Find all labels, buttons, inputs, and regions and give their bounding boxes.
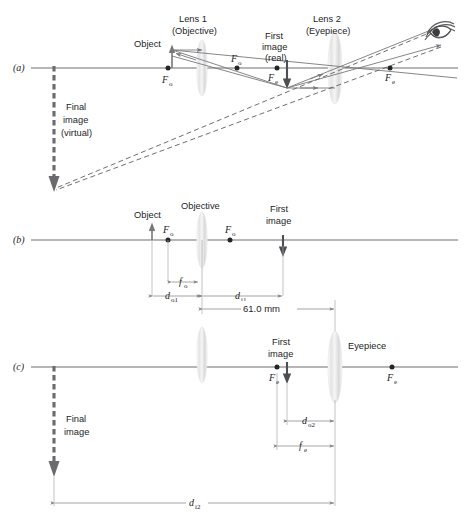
panel-b-dim-object-sub: o1 — [171, 296, 179, 304]
panel-a-label: (a) — [13, 62, 25, 74]
panel-c-eyepiece-label: Eyepiece — [348, 341, 386, 351]
panel-c-final-image-line2: image — [64, 427, 89, 437]
label-F: F — [224, 224, 232, 235]
panel-c: (c) d o2 — [13, 327, 458, 511]
panel-b-object-arrow — [149, 223, 155, 241]
panel-c-focal-right-dot — [390, 365, 395, 370]
panel-b: (b) f o — [13, 201, 458, 345]
panel-a-final-image-line1: Final — [66, 102, 86, 112]
panel-a-virtual-rays — [56, 28, 441, 190]
label-F-sub: o — [232, 230, 236, 238]
panel-a-focal-eyepiece-right-label: F e — [384, 72, 395, 86]
figure-svg: (a) — [0, 0, 464, 524]
label-F-sub: o — [170, 230, 174, 238]
panel-a-eyepiece-lens — [328, 32, 342, 104]
panel-b-dim-separation: 61.0 mm — [203, 301, 334, 315]
panel-b-object-label: Object — [134, 210, 161, 220]
panel-b-extension-lines — [152, 240, 335, 345]
panel-a-lens1-subtitle: (Objective) — [172, 26, 217, 36]
panel-c-dim-image-distance: d i2 — [55, 496, 334, 511]
panel-b-dim-focal-symbol: f — [179, 276, 183, 287]
label-F: F — [230, 53, 238, 64]
panel-b-first-image-line2: image — [266, 216, 291, 226]
panel-a: (a) — [13, 14, 458, 192]
optics-figure-root: (a) — [0, 0, 464, 524]
panel-c-first-image-line2: image — [268, 349, 293, 359]
panel-b-dim-object-distance: d o1 — [153, 290, 201, 304]
panel-b-first-image-line1: First — [270, 204, 288, 214]
panel-c-eyepiece-lens — [328, 331, 342, 403]
panel-c-objective-lens-ghost — [197, 327, 207, 383]
panel-a-focal-eyepiece-right-dot — [388, 66, 393, 71]
panel-a-first-image-line3: (real) — [265, 53, 287, 63]
panel-a-focal-objective-right-label: F o — [230, 53, 242, 67]
label-F: F — [384, 72, 392, 83]
panel-c-dim-focal-sub: e — [304, 446, 307, 454]
panel-b-dim-focal: f o — [172, 276, 198, 290]
panel-c-focal-left-dot — [275, 365, 280, 370]
label-F-sub: e — [392, 78, 395, 86]
panel-a-final-image-line3: (virtual) — [61, 128, 92, 138]
panel-a-objective-lens — [197, 40, 207, 96]
panel-c-focal-left-label: F e — [268, 372, 279, 386]
panel-c-final-image-arrow — [49, 366, 60, 477]
label-F-sub: e — [276, 378, 279, 386]
panel-b-objective-label: Objective — [181, 201, 220, 211]
panel-a-focal-objective-left-label: F o — [161, 74, 173, 88]
panel-a-lens2-subtitle: (Eyepiece) — [306, 26, 350, 36]
panel-c-dim-object-sub: o2 — [308, 421, 316, 429]
panel-b-dim-focal-sub: o — [184, 282, 188, 290]
panel-c-extension-lines — [54, 373, 335, 506]
panel-c-dim-image-sub: i2 — [195, 503, 201, 511]
panel-c-first-image-arrow — [283, 362, 291, 384]
panel-a-first-image-line1: First — [265, 31, 283, 41]
panel-c-final-image-line1: Final — [66, 414, 86, 424]
panel-c-label: (c) — [13, 361, 25, 373]
panel-a-first-image-line2: image — [262, 42, 287, 52]
panel-a-final-image-arrow — [49, 66, 60, 192]
panel-c-dim-focal: f e — [278, 440, 334, 454]
panel-a-focal-eyepiece-left-dot — [275, 66, 280, 71]
panel-a-lens1-title: Lens 1 — [179, 14, 207, 24]
label-F-sub: e — [394, 378, 397, 386]
panel-a-lens2-title: Lens 2 — [313, 14, 341, 24]
label-F: F — [386, 372, 394, 383]
label-F-sub: e — [275, 78, 278, 86]
panel-c-first-image-line1: First — [272, 337, 290, 347]
label-F-sub: o — [169, 80, 173, 88]
panel-b-dim-separation-value: 61.0 mm — [243, 303, 280, 314]
label-F: F — [161, 74, 169, 85]
panel-b-focal-right-dot — [228, 238, 233, 243]
panel-a-objective-rays — [172, 50, 457, 88]
label-F-sub: o — [238, 59, 242, 67]
label-F: F — [162, 224, 170, 235]
panel-a-focal-objective-left-dot — [166, 66, 171, 71]
label-F: F — [267, 72, 275, 83]
panel-a-final-image-line2: image — [63, 115, 88, 125]
panel-c-dim-object-distance: d o2 — [288, 415, 334, 429]
panel-c-focal-right-label: F e — [386, 372, 397, 386]
panel-c-dim-focal-symbol: f — [299, 440, 303, 451]
panel-b-focal-left-label: F o — [162, 224, 174, 238]
panel-b-label: (b) — [13, 234, 25, 246]
panel-b-focal-right-label: F o — [224, 224, 236, 238]
label-F: F — [268, 372, 276, 383]
panel-a-first-image-arrow — [283, 60, 291, 89]
panel-a-object-label: Object — [134, 39, 161, 49]
